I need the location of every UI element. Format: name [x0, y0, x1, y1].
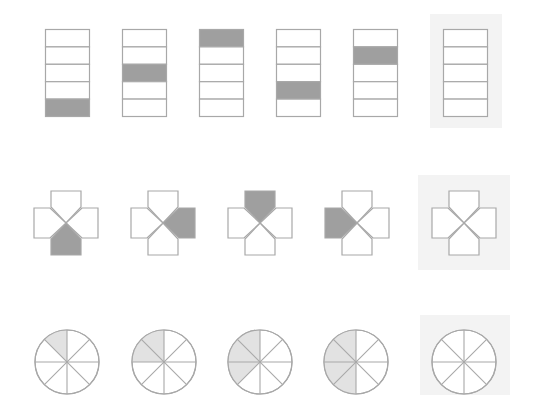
empty-cell — [123, 30, 167, 47]
row-stacked-boxes — [46, 14, 503, 128]
empty-cell — [444, 99, 488, 116]
row-octant-circles — [35, 315, 510, 395]
empty-cell — [444, 64, 488, 81]
empty-cell — [46, 47, 90, 64]
empty-cell — [46, 82, 90, 99]
empty-cell — [123, 99, 167, 116]
empty-cell — [277, 47, 321, 64]
empty-cell — [354, 30, 398, 47]
shaded-cell — [46, 99, 90, 116]
cross-figure — [131, 191, 195, 255]
answer-circle-figure[interactable] — [432, 330, 496, 394]
cross-figure — [34, 191, 98, 255]
cross-figure — [228, 191, 292, 255]
empty-cell — [200, 47, 244, 64]
shaded-cell — [200, 30, 244, 47]
box-figure — [46, 30, 90, 117]
empty-cell — [200, 64, 244, 81]
circle-figure — [228, 330, 292, 394]
answer-box-figure[interactable] — [444, 30, 488, 117]
empty-cell — [123, 47, 167, 64]
empty-cell — [444, 30, 488, 47]
box-figure — [200, 30, 244, 117]
empty-cell — [46, 64, 90, 81]
empty-cell — [277, 30, 321, 47]
box-figure — [123, 30, 167, 117]
shaded-cell — [277, 82, 321, 99]
empty-cell — [277, 99, 321, 116]
empty-cell — [354, 82, 398, 99]
row-cross-pentagons — [34, 175, 510, 270]
empty-cell — [200, 99, 244, 116]
empty-cell — [444, 47, 488, 64]
shaded-cell — [123, 64, 167, 81]
empty-cell — [354, 64, 398, 81]
shaded-cell — [354, 47, 398, 64]
empty-cell — [200, 82, 244, 99]
empty-cell — [354, 99, 398, 116]
empty-cell — [46, 30, 90, 47]
empty-cell — [444, 82, 488, 99]
puzzle-canvas — [0, 0, 533, 395]
empty-cell — [123, 82, 167, 99]
box-figure — [277, 30, 321, 117]
circle-figure — [132, 330, 196, 394]
cross-figure — [325, 191, 389, 255]
circle-figure — [324, 330, 388, 394]
box-figure — [354, 30, 398, 117]
circle-figure — [35, 330, 99, 394]
empty-cell — [277, 64, 321, 81]
